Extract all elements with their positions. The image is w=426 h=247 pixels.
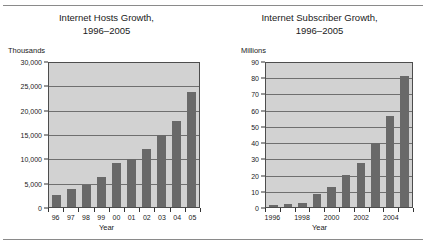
bar [187, 92, 196, 207]
y-axis-tick-label: 20 [251, 172, 259, 179]
bar-slot [154, 63, 169, 207]
bar [127, 159, 136, 207]
x-axis-tick-label: 99 [97, 214, 105, 221]
y-axis-tick-label: 30 [251, 156, 259, 163]
bar [52, 195, 61, 207]
bar-slot [281, 63, 296, 207]
x-axis-title-left: Year [0, 223, 213, 232]
y-axis-tick-label: 10 [251, 188, 259, 195]
y-axis-tick-mark [44, 110, 48, 111]
x-axis-tick-mark [48, 208, 49, 212]
bar-slot [79, 63, 94, 207]
x-axis-tick-mark [383, 208, 384, 212]
plot-area-left [48, 62, 200, 208]
y-axis-tick-label: 25,000 [21, 83, 42, 90]
y-axis-unit-label-left: Thousands [8, 46, 45, 55]
x-axis-tick-mark [354, 208, 355, 212]
y-axis-tick-label: 0 [38, 205, 42, 212]
bar [342, 175, 350, 207]
y-axis-tick-mark [261, 191, 265, 192]
bar-slot [368, 63, 383, 207]
chart-panel-internet-hosts-growth: Internet Hosts Growth, 1996–2005 Thousan… [0, 8, 213, 236]
x-axis-tick-mark [109, 208, 110, 212]
y-axis-tick-mark [44, 159, 48, 160]
bar [327, 187, 335, 207]
y-axis-tick-label: 20,000 [21, 107, 42, 114]
bar [112, 163, 121, 207]
bar [357, 163, 365, 207]
y-axis-tick-mark [261, 94, 265, 95]
bar-slot [339, 63, 354, 207]
bar-slot [64, 63, 79, 207]
bar-slot [310, 63, 325, 207]
bar [386, 116, 394, 207]
bar-slot [169, 63, 184, 207]
x-axis-tick-mark [295, 208, 296, 212]
x-axis-tick-mark [94, 208, 95, 212]
bar-slot [94, 63, 109, 207]
x-axis-tick-mark [265, 208, 266, 212]
y-axis-tick-label: 5,000 [24, 180, 42, 187]
y-axis-tick-mark [261, 62, 265, 63]
bar [67, 189, 76, 207]
chart-title-right-line1: Internet Subscriber Growth, [213, 12, 426, 25]
y-axis-tick-label: 50 [251, 123, 259, 130]
x-axis-tick-label: 2000 [324, 214, 340, 221]
x-axis-tick-mark [170, 208, 171, 212]
bar [284, 204, 292, 207]
plot-background-left [48, 62, 200, 208]
bar-slot [266, 63, 281, 207]
bar [97, 177, 106, 207]
y-axis-tick-label: 10,000 [21, 156, 42, 163]
x-axis-tick-mark [124, 208, 125, 212]
x-axis-tick-mark [154, 208, 155, 212]
x-axis-tick-mark [369, 208, 370, 212]
x-axis-tick-label: 00 [112, 214, 120, 221]
bottom-divider-rule [3, 239, 423, 240]
x-axis-tick-label: 1996 [265, 214, 281, 221]
y-axis-tick-mark [44, 135, 48, 136]
y-axis-unit-label-right: Millions [241, 46, 266, 55]
charts-container: Internet Hosts Growth, 1996–2005 Thousan… [0, 8, 426, 236]
bar-slot [109, 63, 124, 207]
bar [298, 203, 306, 207]
x-axis-tick-mark [309, 208, 310, 212]
x-axis-tick-mark [413, 208, 414, 212]
x-axis-tick-mark [324, 208, 325, 212]
bar-slot [397, 63, 412, 207]
x-axis-tick-label: 02 [143, 214, 151, 221]
y-axis-tick-label: 15,000 [21, 132, 42, 139]
x-axis-tick-mark [339, 208, 340, 212]
chart-title-left-line2: 1996–2005 [0, 25, 213, 38]
x-axis-tick-label: 2004 [383, 214, 399, 221]
bar-slot [354, 63, 369, 207]
chart-title-left-line1: Internet Hosts Growth, [0, 12, 213, 25]
x-axis-tick-mark [63, 208, 64, 212]
plot-background-right [265, 62, 413, 208]
bar [269, 205, 277, 207]
x-axis-tick-label: 98 [82, 214, 90, 221]
y-axis-tick-mark [261, 143, 265, 144]
chart-title-left: Internet Hosts Growth, 1996–2005 [0, 12, 213, 37]
y-axis-tick-mark [261, 159, 265, 160]
x-axis-tick-mark [200, 208, 201, 212]
x-axis-tick-mark [280, 208, 281, 212]
y-axis-tick-mark [44, 86, 48, 87]
bar [142, 149, 151, 207]
x-axis-tick-label: 97 [67, 214, 75, 221]
bar-slot [295, 63, 310, 207]
top-divider-rule [3, 5, 423, 6]
bar-series-left [49, 63, 199, 207]
x-axis-tick-label: 96 [52, 214, 60, 221]
chart-panel-internet-subscriber-growth: Internet Subscriber Growth, 1996–2005 Mi… [213, 8, 426, 236]
y-axis-tick-label: 40 [251, 140, 259, 147]
y-axis-tick-mark [261, 175, 265, 176]
y-axis-tick-label: 0 [255, 205, 259, 212]
y-axis-tick-label: 90 [251, 59, 259, 66]
x-axis-tick-label: 01 [128, 214, 136, 221]
bar [313, 194, 321, 207]
bar-slot [49, 63, 64, 207]
bar [82, 185, 91, 207]
chart-title-right: Internet Subscriber Growth, 1996–2005 [213, 12, 426, 37]
x-axis-tick-label: 04 [173, 214, 181, 221]
